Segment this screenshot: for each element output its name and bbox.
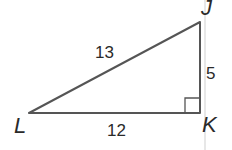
right-angle-marker — [185, 98, 200, 113]
vertex-label-j: J — [200, 0, 213, 20]
triangle-diagram: L K J 13 12 5 — [0, 0, 232, 150]
vertex-label-k: K — [202, 112, 218, 137]
side-label-jk: 5 — [206, 64, 215, 83]
side-label-lk: 12 — [107, 121, 126, 140]
triangle-jkl — [29, 22, 200, 113]
vertex-label-l: L — [14, 113, 26, 138]
side-label-lj: 13 — [95, 43, 114, 62]
